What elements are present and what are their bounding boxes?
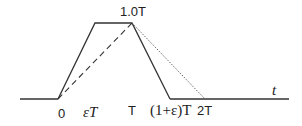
label-origin: 0 [58, 106, 65, 121]
dotted-triangle-fall [132, 23, 205, 99]
label-axis-t: t [272, 82, 277, 98]
dashed-triangle-rise [58, 23, 132, 99]
label-two-t: 2T [197, 103, 212, 118]
label-t-mark: T [128, 103, 136, 118]
trapezoid-pulse [58, 23, 170, 99]
label-peak: 1.0T [120, 4, 146, 19]
label-eps-t: εT [83, 104, 99, 120]
diagram-canvas: 1.0T 0 εT T (1+ε)T 2T t [0, 0, 302, 126]
label-one-plus-eps: (1+ε)T [150, 102, 191, 119]
pulse-diagram: 1.0T 0 εT T (1+ε)T 2T t [0, 0, 302, 126]
